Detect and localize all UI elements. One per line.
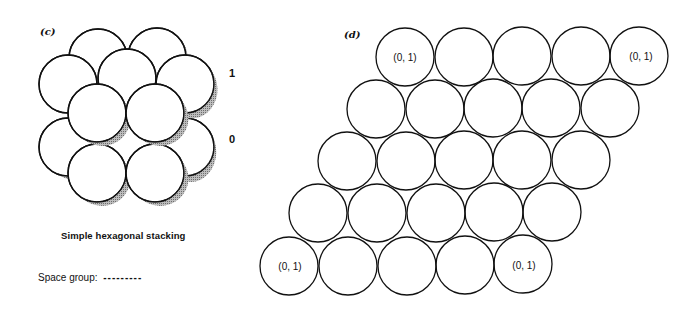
atom-circle bbox=[493, 27, 551, 85]
atom-circle bbox=[406, 80, 464, 138]
atom-circle bbox=[465, 183, 523, 241]
atom-circle bbox=[318, 132, 376, 190]
atom-circle bbox=[464, 79, 522, 137]
atom-circle bbox=[581, 79, 639, 137]
atom-circle bbox=[552, 131, 610, 189]
space-group-row: Space group: --------- bbox=[38, 272, 142, 283]
panel-c-spheres bbox=[39, 28, 218, 206]
panel-c-label: (c) bbox=[40, 26, 56, 37]
atom-circle bbox=[522, 79, 580, 137]
space-group-label: Space group: bbox=[38, 272, 98, 283]
atom-circle bbox=[435, 28, 493, 86]
caption-simple-hexagonal-stacking: Simple hexagonal stacking bbox=[61, 230, 185, 241]
atom-circle bbox=[493, 131, 551, 189]
atom-circle bbox=[435, 131, 493, 189]
atom-circle bbox=[407, 184, 465, 242]
sphere bbox=[68, 144, 130, 206]
atom-circle bbox=[552, 27, 610, 85]
atom-circle bbox=[436, 236, 494, 294]
panel-d-label: (d) bbox=[344, 29, 360, 40]
figure-canvas: (0, 1) (0, 1) (0, 1) (0, 1) bbox=[0, 0, 698, 315]
layer-1-label: 1 bbox=[229, 67, 235, 79]
atom-circle bbox=[377, 132, 435, 190]
atom-circle bbox=[378, 237, 436, 295]
panel-d-coordinate-labels: (0, 1) (0, 1) (0, 1) (0, 1) bbox=[278, 51, 652, 272]
atom-circle bbox=[319, 237, 377, 295]
coord-label: (0, 1) bbox=[629, 51, 652, 62]
space-group-blank: --------- bbox=[103, 272, 142, 283]
layer-0-label: 0 bbox=[229, 133, 235, 145]
coord-label: (0, 1) bbox=[278, 261, 301, 272]
coord-label: (0, 1) bbox=[393, 52, 416, 63]
panel-d-circles bbox=[260, 27, 668, 295]
atom-circle bbox=[347, 80, 405, 138]
atom-circle bbox=[523, 183, 581, 241]
atom-circle bbox=[348, 184, 406, 242]
coord-label: (0, 1) bbox=[512, 260, 535, 271]
atom-circle bbox=[289, 184, 347, 242]
